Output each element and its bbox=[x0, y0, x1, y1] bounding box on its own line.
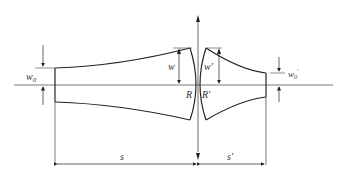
right-beam-upper bbox=[206, 48, 266, 73]
label-w: w bbox=[168, 61, 175, 72]
label-w-prime: w′ bbox=[204, 61, 214, 72]
left-beam-lower bbox=[55, 102, 190, 120]
label-R: R bbox=[185, 89, 192, 100]
wavefront-R bbox=[190, 48, 196, 120]
right-beam-lower bbox=[206, 97, 266, 120]
label-R-prime: R′ bbox=[201, 89, 211, 100]
label-s-prime: s′ bbox=[227, 151, 234, 162]
label-w0-prime: w0′ bbox=[288, 68, 299, 80]
label-s: s bbox=[120, 151, 124, 162]
beam-diagram: w0 w w′ w0′ R R′ s s′ bbox=[0, 0, 345, 185]
wavefront-R-prime bbox=[200, 48, 206, 120]
label-w0: w0 bbox=[26, 71, 37, 84]
